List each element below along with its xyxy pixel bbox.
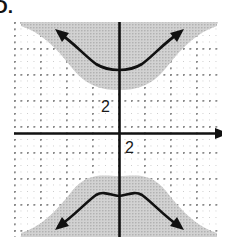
x-axis-arrowhead — [215, 128, 229, 139]
y-axis-tick-label-2: 2 — [101, 99, 110, 115]
figure-canvas: D. — [0, 0, 230, 237]
plot-svg — [0, 0, 230, 237]
x-axis-tick-label-2: 2 — [125, 140, 134, 156]
y-axis-arrowhead — [113, 6, 126, 22]
